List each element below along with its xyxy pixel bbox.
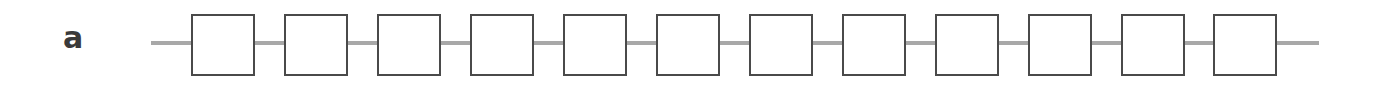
chain-node-4 <box>470 14 534 76</box>
chain-node-11 <box>1121 14 1185 76</box>
chain-node-12 <box>1213 14 1277 76</box>
chain-node-9 <box>935 14 999 76</box>
chain-node-5 <box>563 14 627 76</box>
chain-node-7 <box>749 14 813 76</box>
chain-node-8 <box>842 14 906 76</box>
chain-node-2 <box>284 14 348 76</box>
chain-node-6 <box>656 14 720 76</box>
panel-label: a <box>63 18 83 58</box>
chain-node-10 <box>1028 14 1092 76</box>
chain-node-3 <box>377 14 441 76</box>
chain-node-1 <box>191 14 255 76</box>
